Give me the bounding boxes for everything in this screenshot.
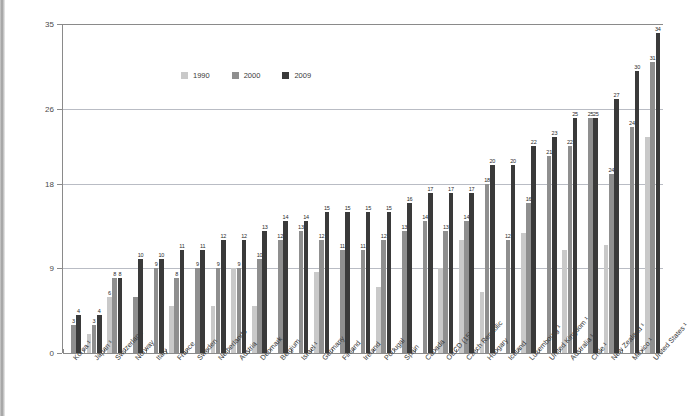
- bar-2009: [428, 193, 433, 353]
- bar-value-label: 15: [363, 205, 373, 211]
- bar-2000: [443, 231, 448, 353]
- bar-2000: [361, 250, 366, 353]
- bar-2009: [304, 221, 309, 353]
- bar-2009: [387, 212, 392, 353]
- bar-value-label: 14: [301, 214, 311, 220]
- bar-group: 3134: [645, 24, 660, 353]
- y-tick-label: 18: [28, 180, 54, 189]
- bar-value-label: 25: [591, 111, 601, 117]
- legend: 1990 2000 2009: [181, 71, 311, 80]
- legend-swatch-2009: [282, 72, 289, 79]
- bar-group: 1317: [438, 24, 453, 353]
- page-edge-artifact: [0, 0, 5, 416]
- bar-value-label: 20: [488, 158, 498, 164]
- bar-value-label: 30: [632, 64, 642, 70]
- bar-group: 1215: [376, 24, 391, 353]
- bar-2000: [299, 231, 304, 353]
- bar-2000: [609, 174, 614, 353]
- bar-group: 2225: [562, 24, 577, 353]
- bar-2000: [71, 325, 76, 353]
- bar-2000: [506, 240, 511, 353]
- bar-2000: [568, 146, 573, 353]
- legend-item-2009: 2009: [282, 71, 311, 80]
- bar-2009: [180, 250, 185, 353]
- bar-group: 1220: [500, 24, 515, 353]
- legend-item-2000: 2000: [232, 71, 261, 80]
- legend-label-2009: 2009: [294, 71, 311, 80]
- bar-value-label: 34: [653, 26, 663, 32]
- bar-value-label: 20: [508, 158, 518, 164]
- bar-value-label: 4: [94, 308, 104, 314]
- bar-2000: [650, 62, 655, 353]
- bar-value-label: 14: [281, 214, 291, 220]
- x-tick-mark: [63, 349, 64, 353]
- bar-group: 2525: [583, 24, 598, 353]
- bar-2000: [547, 156, 552, 353]
- bar-value-label: 13: [260, 224, 270, 230]
- plot-area: 3434688109108119119129121013121413141215…: [62, 24, 663, 353]
- bar-2000: [630, 127, 635, 353]
- bar-value-label: 12: [239, 233, 249, 239]
- y-tick-label: 26: [28, 105, 54, 114]
- bar-group: 1115: [356, 24, 371, 353]
- bar-group: 2123: [542, 24, 557, 353]
- bar-value-label: 17: [446, 186, 456, 192]
- bar-value-label: 15: [384, 205, 394, 211]
- bar-group: 34: [66, 24, 81, 353]
- bar-value-label: 25: [570, 111, 580, 117]
- y-tick-label: 9: [28, 264, 54, 273]
- legend-label-2000: 2000: [244, 71, 261, 80]
- bar-group: 1115: [335, 24, 350, 353]
- bar-2000: [154, 268, 159, 353]
- bar-group: 1215: [314, 24, 329, 353]
- bar-2009: [221, 240, 226, 353]
- legend-swatch-2000: [232, 72, 239, 79]
- bar-2009: [407, 203, 412, 353]
- bar-value-label: 10: [136, 252, 146, 258]
- bar-value-label: 4: [74, 308, 84, 314]
- bar-value-label: 15: [343, 205, 353, 211]
- bar-group: 1417: [459, 24, 474, 353]
- bar-value-label: 11: [198, 243, 208, 249]
- bar-group: 1316: [397, 24, 412, 353]
- bar-group: 10: [128, 24, 143, 353]
- bar-2009: [656, 33, 661, 353]
- bar-2000: [423, 221, 428, 353]
- bar-group: 1622: [521, 24, 536, 353]
- bar-value-label: 15: [322, 205, 332, 211]
- bar-value-label: 8: [115, 271, 125, 277]
- bar-2009: [593, 118, 598, 353]
- y-tick-mark: [57, 353, 62, 354]
- bar-value-label: 12: [219, 233, 229, 239]
- y-tick-label: 35: [28, 20, 54, 29]
- bar-2009: [469, 193, 474, 353]
- bar-2009: [449, 193, 454, 353]
- bar-2009: [511, 165, 516, 353]
- bar-group: 34: [87, 24, 102, 353]
- bar-2009: [573, 118, 578, 353]
- bar-1990: [604, 245, 609, 353]
- bar-group: 1417: [418, 24, 433, 353]
- y-tick-label: 0: [28, 349, 54, 358]
- legend-item-1990: 1990: [181, 71, 210, 80]
- bar-2000: [257, 259, 262, 353]
- bar-group: 2430: [624, 24, 639, 353]
- bar-value-label: 17: [425, 186, 435, 192]
- bar-1990: [169, 306, 174, 353]
- bar-value-label: 16: [405, 196, 415, 202]
- bar-value-label: 17: [467, 186, 477, 192]
- bar-2009: [200, 250, 205, 353]
- bar-value-label: 27: [612, 92, 622, 98]
- bar-1990: [645, 137, 650, 353]
- bar-2009: [531, 146, 536, 353]
- bar-2009: [283, 221, 288, 353]
- bar-2000: [402, 231, 407, 353]
- bar-2000: [526, 203, 531, 353]
- bar-2009: [118, 278, 123, 353]
- bar-2000: [92, 325, 97, 353]
- bar-group: 688: [107, 24, 122, 353]
- bar-series-container: 3434688109108119119129121013121413141215…: [63, 24, 663, 353]
- bar-2000: [174, 278, 179, 353]
- bar-group: 1820: [480, 24, 495, 353]
